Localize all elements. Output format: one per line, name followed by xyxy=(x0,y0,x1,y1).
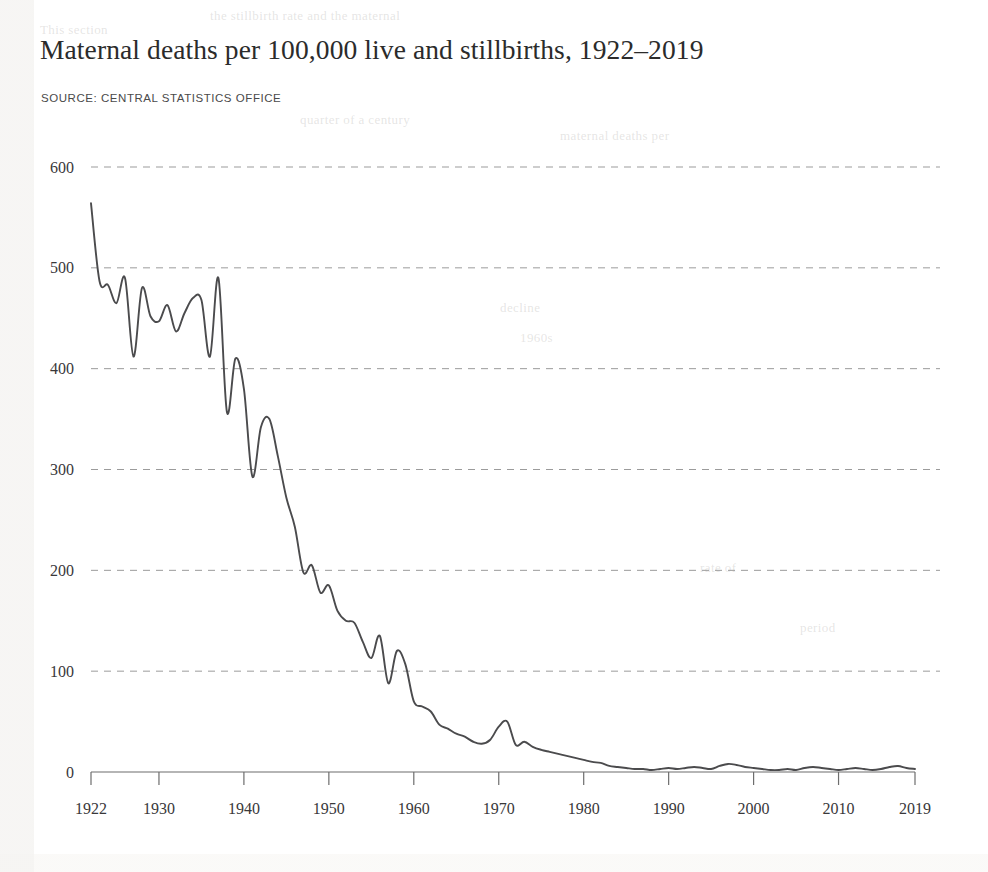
line-chart-plot: 0100200300400500600 19221930194019501960… xyxy=(0,0,988,872)
ghost-text: period xyxy=(800,620,836,636)
y-axis-tick-label: 100 xyxy=(50,663,74,680)
x-axis-tick-label: 2019 xyxy=(899,800,931,817)
ghost-text: the stillbirth rate and the maternal xyxy=(210,8,400,24)
y-axis-tick-label: 0 xyxy=(66,764,74,781)
x-axis-labels-group: 1922193019401950196019701980199020002010… xyxy=(75,800,931,817)
ghost-text: quarter of a century xyxy=(300,112,410,128)
y-axis-tick-label: 300 xyxy=(50,461,74,478)
x-axis-group xyxy=(91,772,915,785)
ghost-text: rate of xyxy=(700,560,736,576)
x-axis-tick-label: 1970 xyxy=(483,800,515,817)
x-axis-tick-label: 1940 xyxy=(228,800,260,817)
x-axis-tick-label: 1930 xyxy=(143,800,175,817)
x-axis-tick-label: 2000 xyxy=(738,800,770,817)
x-axis-tick-label: 1980 xyxy=(568,800,600,817)
x-axis-tick-label: 1960 xyxy=(398,800,430,817)
x-axis-tick-label: 1950 xyxy=(313,800,345,817)
data-series-line xyxy=(91,203,915,770)
ghost-text: 1960s xyxy=(520,330,553,346)
y-axis-tick-label: 600 xyxy=(50,159,74,176)
gridlines-group xyxy=(91,167,940,671)
ghost-text: decline xyxy=(500,300,540,316)
x-axis-tick-label: 1922 xyxy=(75,800,107,817)
ghost-text: maternal deaths per xyxy=(560,128,669,144)
y-axis-tick-label: 400 xyxy=(50,360,74,377)
ghost-text: This section xyxy=(40,22,108,38)
y-axis-labels-group: 0100200300400500600 xyxy=(50,159,74,781)
x-axis-tick-label: 1990 xyxy=(653,800,685,817)
y-axis-tick-label: 200 xyxy=(50,562,74,579)
chart-figure: Maternal deaths per 100,000 live and sti… xyxy=(0,0,988,872)
y-axis-tick-label: 500 xyxy=(50,259,74,276)
x-axis-tick-label: 2010 xyxy=(823,800,855,817)
